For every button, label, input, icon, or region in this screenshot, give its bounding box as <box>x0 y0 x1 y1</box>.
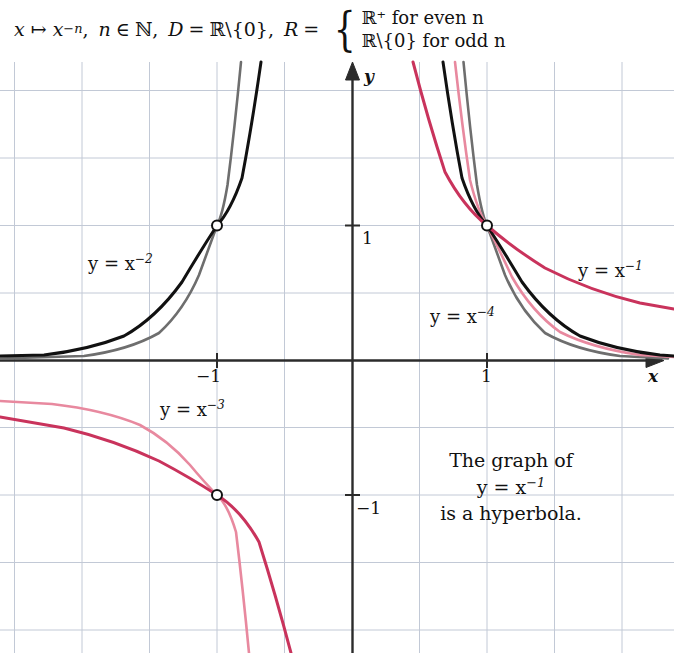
curve-y-equals-x-pow-neg4 <box>0 62 668 359</box>
hyperbola-note-line2-exponent: −1 <box>526 475 545 490</box>
marker-neg1-1 <box>212 221 222 231</box>
curve-label-x-pow-neg3: y = x−3 <box>160 398 225 420</box>
plot-canvas <box>0 0 674 653</box>
x-tick-label-pos1: 1 <box>481 366 492 386</box>
curve-label-x-pow-neg4: y = x−4 <box>430 305 495 327</box>
curve-x4-left-branch <box>0 62 241 359</box>
curve-label-x1-base: y = x <box>578 260 625 281</box>
curve-label-x3-base: y = x <box>160 399 207 420</box>
curve-label-x1-exponent: −1 <box>625 259 643 273</box>
figure-root: x ↦ x−n , n ∈ ℕ , D = ℝ\{0} , R = { ℝ⁺ f… <box>0 0 674 653</box>
curve-y-equals-x-pow-neg1 <box>0 62 674 653</box>
curve-label-x3-exponent: −3 <box>207 398 225 412</box>
hyperbola-note-line1: The graph of <box>406 448 616 474</box>
y-axis-label: y <box>364 66 374 86</box>
curve-x3-left-branch <box>0 401 249 653</box>
y-axis-arrow-icon <box>346 62 360 80</box>
grid-lines <box>0 62 674 653</box>
curve-y-equals-x-pow-neg2 <box>0 62 674 356</box>
curve-label-x-pow-neg1: y = x−1 <box>578 259 643 281</box>
hyperbola-note: The graph of y = x−1 is a hyperbola. <box>406 448 616 526</box>
marker-neg1-neg1 <box>212 490 222 500</box>
hyperbola-note-line2: y = x−1 <box>406 474 616 501</box>
hyperbola-note-line2-base: y = x <box>477 476 526 498</box>
curve-y-equals-x-pow-neg3 <box>0 62 674 653</box>
marker-1-1 <box>482 221 492 231</box>
curve-label-x2-base: y = x <box>88 253 135 274</box>
curve-label-x-pow-neg2: y = x−2 <box>88 252 153 274</box>
x-axis-label: x <box>648 366 658 386</box>
hyperbola-note-line3: is a hyperbola. <box>406 501 616 527</box>
x-tick-label-neg1: −1 <box>196 366 221 386</box>
curve-label-x4-exponent: −4 <box>477 305 495 319</box>
curve-x1-left-branch <box>0 417 291 653</box>
y-tick-label-pos1: 1 <box>362 228 373 248</box>
curve-label-x4-base: y = x <box>430 306 477 327</box>
axis-lines <box>0 62 664 653</box>
y-tick-label-neg1: −1 <box>356 498 381 518</box>
curve-label-x2-exponent: −2 <box>135 252 153 266</box>
